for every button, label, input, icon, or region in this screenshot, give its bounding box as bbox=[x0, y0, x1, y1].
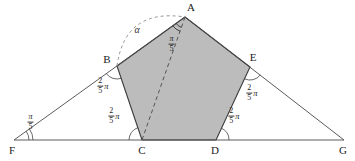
pentagon-triangle-diagram: A B C D E F G α π 5 2 5 π 2 5 π 2 5 π bbox=[0, 0, 355, 161]
angle-label-f: π 5 bbox=[27, 113, 34, 132]
alpha-label: α bbox=[134, 25, 139, 35]
angle-arc-c bbox=[129, 128, 138, 140]
fraction: π 5 bbox=[27, 113, 33, 132]
fraction: 2 5 bbox=[246, 84, 252, 103]
angle-label-a: π 5 bbox=[168, 35, 175, 54]
fraction: 2 5 bbox=[108, 107, 114, 126]
vertex-label-f: F bbox=[9, 145, 15, 156]
angle-label-b: 2 5 π bbox=[97, 77, 108, 96]
diagram-canvas bbox=[0, 0, 355, 161]
fraction: π 5 bbox=[168, 35, 174, 54]
angle-label-e: 2 5 π bbox=[246, 84, 257, 103]
vertex-label-b: B bbox=[103, 54, 110, 65]
angle-arc-e bbox=[245, 75, 261, 80]
vertex-label-e: E bbox=[250, 52, 257, 63]
vertex-label-g: G bbox=[339, 145, 347, 156]
angle-label-d: 2 5 π bbox=[228, 107, 239, 126]
angle-arc-d bbox=[222, 128, 230, 140]
vertex-label-c: C bbox=[138, 145, 145, 156]
angle-arc-f-inner bbox=[26, 131, 29, 140]
angle-label-c: 2 5 π bbox=[108, 107, 119, 126]
fraction: 2 5 bbox=[228, 107, 234, 126]
vertex-label-a: A bbox=[187, 2, 195, 13]
vertex-label-d: D bbox=[211, 145, 219, 156]
fraction: 2 5 bbox=[97, 77, 103, 96]
